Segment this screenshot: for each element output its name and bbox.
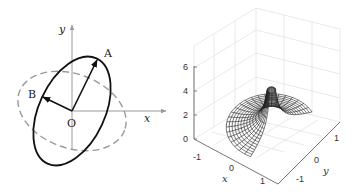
origin-label: O bbox=[67, 117, 76, 130]
x-tick-0: 0 bbox=[229, 163, 234, 173]
y-tick-0: 0 bbox=[314, 155, 319, 165]
z-tick-0: 0 bbox=[183, 134, 188, 144]
right-surface-plot: 0 2 4 6 -1 0 1 x -1 0 1 y bbox=[183, 8, 340, 186]
x-axis-label: x bbox=[144, 112, 151, 125]
z-tick-6: 6 bbox=[183, 62, 188, 72]
axes bbox=[194, 66, 340, 184]
vector-ob bbox=[43, 97, 72, 111]
point-b-label: B bbox=[28, 88, 36, 101]
z-tick-4: 4 bbox=[183, 86, 188, 96]
x-axis-label: x bbox=[222, 173, 228, 184]
y-axis-label: y bbox=[322, 165, 329, 176]
surface-mesh bbox=[226, 87, 312, 157]
x-tick-1: 1 bbox=[260, 176, 265, 186]
y-axis-label: y bbox=[58, 23, 66, 36]
vector-oa bbox=[72, 60, 97, 111]
figure: y x O A B bbox=[0, 0, 354, 195]
left-diagram: y x O A B bbox=[7, 23, 166, 178]
x-tick-neg1: -1 bbox=[193, 152, 201, 162]
y-tick-1: 1 bbox=[334, 133, 339, 143]
surface-wireframe bbox=[226, 87, 312, 157]
point-a-label: A bbox=[103, 47, 113, 60]
grid-lines bbox=[194, 8, 340, 158]
z-tick-2: 2 bbox=[183, 110, 188, 120]
y-tick-neg1: -1 bbox=[296, 174, 304, 184]
